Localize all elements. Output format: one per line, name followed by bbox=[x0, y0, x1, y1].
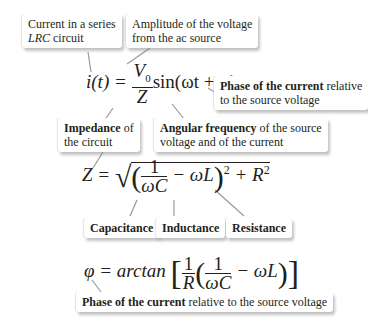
callout-current-lrc: Current in a series LRC circuit bbox=[22, 14, 122, 48]
connector-capacitance bbox=[130, 200, 137, 216]
fraction-v0-over-z: V0Z bbox=[132, 62, 153, 106]
phase-equation: φ = arctan [1R(1ωC − ωL)] bbox=[84, 254, 299, 292]
callout-capacitance: Capacitance bbox=[84, 218, 159, 238]
impedance-equation: Z = √(1ωC − ωL)2 + R2 bbox=[82, 158, 270, 195]
callout-impedance: Impedance of the circuit bbox=[58, 118, 140, 152]
callout-inductance: Inductance bbox=[156, 218, 225, 238]
callout-phase-bottom: Phase of the current relative to the sou… bbox=[76, 292, 333, 312]
callout-phase-top: Phase of the current relative to the sou… bbox=[214, 76, 368, 110]
callout-angular-frequency: Angular frequency of the source voltage … bbox=[154, 118, 328, 152]
callout-resistance: Resistance bbox=[226, 218, 292, 238]
callout-amplitude: Amplitude of the voltage from the ac sou… bbox=[126, 14, 258, 48]
